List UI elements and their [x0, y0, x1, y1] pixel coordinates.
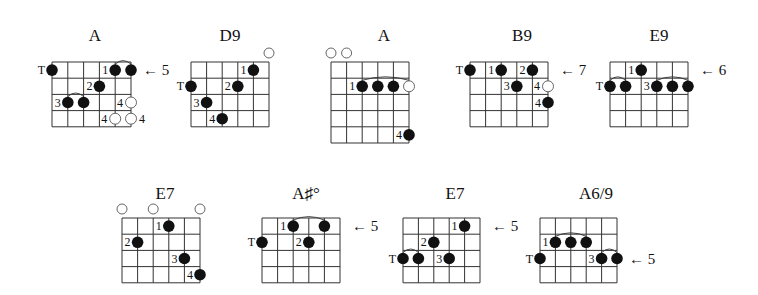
- chord-title: E9: [650, 26, 669, 45]
- finger-dot-icon: [596, 253, 608, 265]
- chord-title: A6/9: [579, 184, 613, 203]
- open-string-icon: [326, 48, 336, 58]
- chord-title: E7: [156, 184, 175, 203]
- finger-dot-icon: [635, 64, 647, 76]
- finger-dot-icon: [534, 253, 546, 265]
- finger-label: 4: [139, 112, 145, 126]
- finger-label: 2: [86, 79, 92, 93]
- fret-position-marker: ← 5: [352, 218, 378, 234]
- fret-position-marker: ← 5: [629, 251, 655, 267]
- chord-diagram: A444T123← 5: [38, 26, 170, 127]
- finger-label: 2: [296, 235, 302, 249]
- finger-dot-icon: [125, 64, 137, 76]
- fret-position-marker: ← 6: [700, 62, 727, 78]
- open-string-icon: [148, 204, 158, 214]
- finger-dot-icon: [132, 237, 144, 249]
- fret-position-marker: ← 5: [492, 218, 518, 234]
- open-string-icon: [342, 48, 352, 58]
- finger-dot-icon: [319, 220, 331, 232]
- finger-dot-icon: [428, 237, 440, 249]
- fretboard-grid: [610, 62, 688, 127]
- finger-dot-icon: [372, 81, 384, 93]
- finger-dot-icon: [397, 253, 409, 265]
- finger-label: 3: [644, 79, 650, 93]
- finger-label: 3: [194, 96, 200, 110]
- finger-dot-icon: [413, 253, 425, 265]
- finger-dot-icon: [46, 64, 58, 76]
- fretboard-grid: [540, 218, 617, 283]
- finger-dot-icon: [216, 113, 228, 125]
- fret-position-marker: ← 5: [143, 62, 169, 78]
- finger-label: 4: [396, 128, 402, 142]
- finger-dot-icon: [651, 81, 663, 93]
- finger-dot-icon: [667, 81, 679, 93]
- finger-label: 2: [225, 79, 231, 93]
- chord-diagram: E91T3← 6: [596, 26, 727, 127]
- finger-dot-icon: [511, 81, 523, 93]
- finger-dot-icon: [388, 81, 400, 93]
- open-string-icon: [195, 204, 205, 214]
- finger-label: 3: [55, 96, 61, 110]
- finger-dot-icon: [459, 220, 471, 232]
- chord-diagram: E712T3← 5: [389, 184, 519, 283]
- optional-note-icon: [126, 97, 137, 108]
- finger-label: T: [248, 235, 256, 249]
- chord-title: B9: [512, 26, 532, 45]
- finger-dot-icon: [604, 81, 616, 93]
- finger-dot-icon: [464, 64, 476, 76]
- finger-dot-icon: [682, 81, 694, 93]
- finger-dot-icon: [303, 237, 315, 249]
- finger-label: 3: [589, 252, 595, 266]
- finger-label: 1: [542, 235, 548, 249]
- chord-diagram: A6/91T3← 5: [526, 184, 656, 283]
- finger-label: 1: [488, 63, 494, 77]
- chord-diagram: B94T1234← 7: [456, 26, 587, 127]
- chord-diagram: D91T234: [177, 26, 274, 127]
- finger-label: 1: [156, 219, 162, 233]
- optional-note-icon: [404, 81, 415, 92]
- chord-title: A♯°: [292, 184, 320, 203]
- finger-label: T: [456, 63, 464, 77]
- open-string-icon: [264, 48, 274, 58]
- finger-label: T: [38, 63, 46, 77]
- finger-label: 1: [280, 219, 286, 233]
- chord-title: E7: [446, 184, 465, 203]
- finger-label: 4: [117, 96, 123, 110]
- finger-label: 1: [349, 79, 355, 93]
- finger-label: 1: [102, 63, 108, 77]
- fret-position-marker: ← 7: [560, 62, 587, 78]
- finger-dot-icon: [109, 64, 121, 76]
- finger-label: 2: [421, 235, 427, 249]
- finger-label: 3: [504, 79, 510, 93]
- finger-label: 4: [101, 112, 107, 126]
- finger-dot-icon: [356, 81, 368, 93]
- finger-label: T: [389, 252, 397, 266]
- finger-dot-icon: [94, 81, 106, 93]
- finger-dot-icon: [78, 97, 90, 109]
- finger-dot-icon: [163, 220, 175, 232]
- finger-label: 1: [628, 63, 634, 77]
- finger-dot-icon: [403, 129, 415, 141]
- finger-dot-icon: [542, 97, 554, 109]
- finger-dot-icon: [232, 81, 244, 93]
- chord-diagram: A14: [326, 26, 415, 143]
- finger-label: 2: [519, 63, 525, 77]
- chord-diagram: E71234: [117, 184, 206, 283]
- finger-dot-icon: [495, 64, 507, 76]
- chord-title: D9: [220, 26, 241, 45]
- finger-dot-icon: [443, 253, 455, 265]
- finger-label: 4: [535, 96, 541, 110]
- finger-dot-icon: [185, 81, 197, 93]
- chord-diagram-sheet: A444T123← 5D91T234A14B94T1234← 7E91T3← 6…: [0, 0, 758, 295]
- finger-dot-icon: [620, 81, 632, 93]
- finger-label: 1: [452, 219, 458, 233]
- finger-label: T: [526, 252, 534, 266]
- finger-label: 2: [125, 235, 131, 249]
- finger-dot-icon: [179, 253, 191, 265]
- finger-dot-icon: [256, 237, 268, 249]
- finger-label: 4: [209, 112, 215, 126]
- finger-dot-icon: [550, 237, 562, 249]
- finger-dot-icon: [62, 97, 74, 109]
- chord-diagram: A♯°1T2← 5: [248, 184, 379, 283]
- finger-label: T: [177, 79, 185, 93]
